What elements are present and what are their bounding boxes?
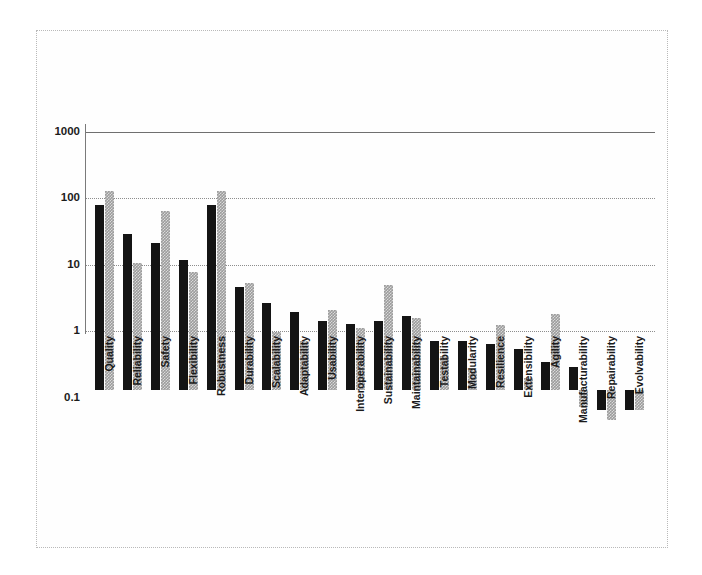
x-label-usability: Usability [327, 336, 338, 466]
x-label-modularity: Modularity [467, 336, 478, 466]
x-label-flexibility: Flexibility [188, 336, 199, 466]
x-label-testability: Testability [439, 336, 450, 466]
x-label-extensibility: Extensibility [523, 336, 534, 466]
x-label-agility: Agility [550, 336, 561, 466]
y-tick-label-1: 1 [36, 325, 80, 337]
x-label-evolvability: Evolvability [634, 336, 645, 466]
x-label-robustness: Robustness [216, 336, 227, 466]
x-label-durability: Durability [244, 336, 255, 466]
x-label-quality: Quality [104, 336, 115, 466]
y-tick-label-1000: 1000 [36, 126, 80, 138]
x-label-maintainability: Maintainability [411, 336, 422, 466]
x-label-safety: Safety [160, 336, 171, 466]
x-label-interoperability: Interoperability [355, 336, 366, 466]
bar-chart: 10001001010.1 QualityReliabilitySafetyFl… [0, 0, 702, 575]
y-tick-label-0.1: 0.1 [36, 392, 80, 404]
y-axis-tick-labels: 10001001010.1 [32, 0, 80, 575]
x-label-reliability: Reliability [132, 336, 143, 466]
x-label-sustainability: Sustainability [383, 336, 394, 466]
x-label-adaptability: Adaptability [299, 336, 310, 466]
y-tick-label-10: 10 [36, 259, 80, 271]
figure-page: 10001001010.1 QualityReliabilitySafetyFl… [0, 0, 702, 575]
x-axis-category-labels: QualityReliabilitySafetyFlexibilityRobus… [85, 336, 655, 466]
x-label-scalability: Scalability [271, 336, 282, 466]
y-tick-label-100: 100 [36, 192, 80, 204]
x-label-repairability: Repairability [606, 336, 617, 466]
x-label-manufacturability: Manufacturability [578, 336, 589, 466]
x-label-resilience: Resilience [495, 336, 506, 466]
